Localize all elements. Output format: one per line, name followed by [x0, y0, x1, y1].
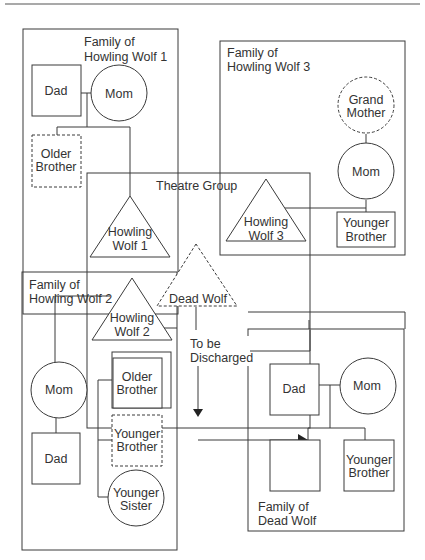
hw2-sibling-line: [98, 380, 112, 497]
text-hw1-dad: Dad: [45, 84, 68, 98]
text-hw1-mom: Mom: [105, 87, 133, 101]
label-family-hw3-2: Howling Wolf 3: [227, 60, 310, 74]
text-dw-younger-brother-1: Younger: [346, 453, 392, 467]
dw-sibling-line: [308, 428, 365, 440]
text-hw1-2: Wolf 1: [112, 239, 147, 253]
label-family-hw1-2: Howling Wolf 1: [84, 50, 167, 64]
text-hw2-younger-brother-2: Brother: [117, 440, 158, 454]
label-family-hw3-1: Family of: [227, 46, 278, 60]
text-discharge-1: To be: [190, 337, 221, 351]
text-hw3-2: Wolf 3: [248, 229, 283, 243]
text-hw2-older-brother-1: Older: [122, 370, 153, 384]
node-dw-self: [270, 440, 320, 491]
text-hw2-2: Wolf 2: [114, 325, 149, 339]
text-hw3-younger-brother-1: Younger: [343, 216, 389, 230]
text-hw2-1: Howling: [110, 311, 155, 325]
label-family-hw1-1: Family of: [84, 35, 135, 49]
text-hw1-1: Howling: [108, 225, 153, 239]
text-hw2-older-brother-2: Brother: [117, 383, 158, 397]
text-dw-mom: Mom: [353, 379, 381, 393]
text-hw2-dad: Dad: [45, 452, 68, 466]
text-discharge-2: Discharged: [190, 351, 253, 365]
text-dead-wolf: Dead Wolf: [169, 292, 228, 306]
arrow-head-down: [193, 409, 203, 417]
text-hw2-younger-brother-1: Younger: [114, 427, 160, 441]
dead-family-outline-top: [248, 312, 405, 329]
diagram-canvas: Family of Howling Wolf 1 Family of Howli…: [0, 0, 425, 560]
text-dw-dad: Dad: [283, 382, 306, 396]
text-hw2-younger-sister-2: Sister: [120, 499, 152, 513]
text-hw1-older-brother-1: Older: [41, 147, 72, 161]
text-hw3-mom: Mom: [352, 165, 380, 179]
label-family-hw2-1: Family of: [29, 278, 80, 292]
text-hw3-younger-brother-2: Brother: [346, 230, 387, 244]
text-dw-younger-brother-2: Brother: [349, 466, 390, 480]
text-hw2-younger-sister-1: Younger: [113, 486, 159, 500]
text-hw3-1: Howling: [244, 215, 289, 229]
label-family-hw2-2: Howling Wolf 2: [29, 292, 112, 306]
text-hw3-grandmother-2: Mother: [347, 106, 386, 120]
text-hw3-grandmother-1: Grand: [349, 93, 384, 107]
label-family-dead-2: Dead Wolf: [258, 514, 317, 528]
label-family-dead-1: Family of: [258, 500, 309, 514]
label-theatre-group: Theatre Group: [156, 179, 237, 193]
text-hw2-mom: Mom: [45, 383, 73, 397]
text-hw1-older-brother-2: Brother: [36, 160, 77, 174]
discharge-bracket: [246, 330, 310, 351]
